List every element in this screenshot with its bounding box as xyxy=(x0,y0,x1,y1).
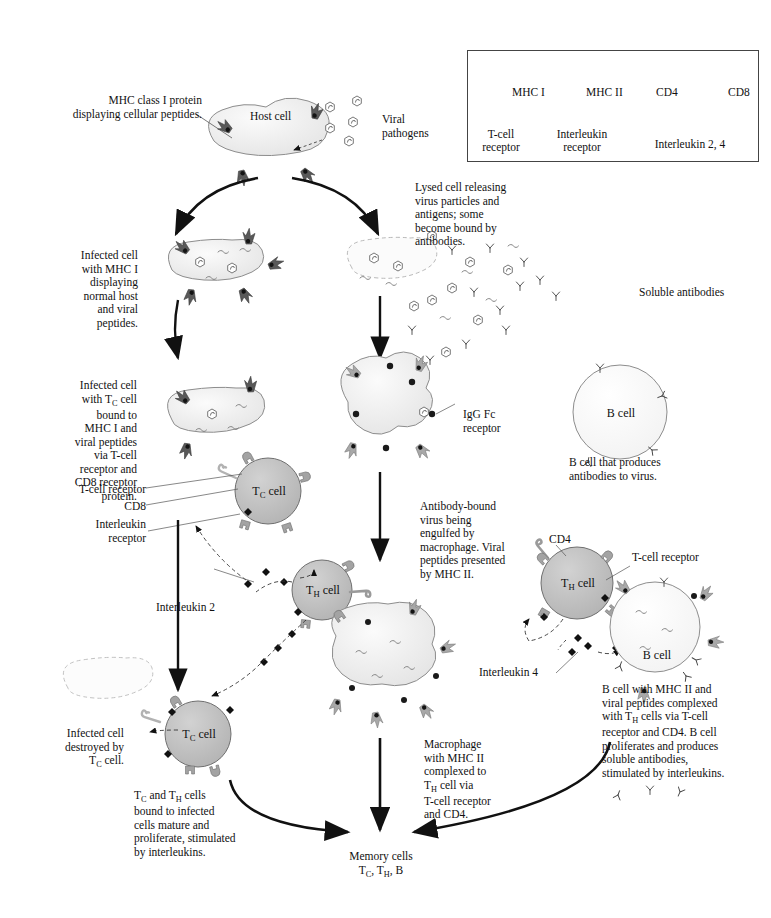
destroyed-cell-group xyxy=(63,657,152,698)
line-mem2: TC, TH, B xyxy=(359,864,404,876)
memory-cells-caption: Memory cells TC, TH, B xyxy=(318,850,444,880)
line-tm1: TC and TH cells xyxy=(134,789,206,801)
infected-cell-mhc1-group xyxy=(168,227,285,306)
th-cell-label-right: TH cell xyxy=(554,576,602,593)
interleukin-4-label: Interleukin 4 xyxy=(479,666,538,680)
infected-destroyed-caption: Infected cell destroyed by TC cell. xyxy=(26,727,124,770)
lysed-cell-caption: Lysed cell releasing virus particles and… xyxy=(415,181,545,249)
free-antibodies-bottom xyxy=(613,786,685,800)
legend-label-interleukin: Interleukin 2, 4 xyxy=(630,138,750,151)
b-cell-label-right-bottom: B cell xyxy=(634,648,680,662)
macrophage-caption: Macrophage with MHC II complexed to TH c… xyxy=(424,738,534,822)
line-tc2: with TC cell xyxy=(82,393,137,405)
macrophage-upper-group xyxy=(341,352,455,461)
viral-pathogens-label: Viral pathogens xyxy=(382,113,442,140)
tc-cell-label-mid: TC cell xyxy=(245,484,293,501)
th-cell-label-center: TH cell xyxy=(299,583,347,600)
legend-label-mhc1: MHC I xyxy=(512,86,545,98)
macrophage-lower-group xyxy=(328,597,457,728)
legend-label-tcr: T-cell receptor xyxy=(470,128,532,154)
b-cell-label-right-top: B cell xyxy=(598,406,644,420)
legend-label-cd8: CD8 xyxy=(728,86,750,98)
interleukin-receptor-label: Interleukin receptor xyxy=(58,518,146,545)
line-id3: TC cell. xyxy=(89,754,124,766)
tc-cell-label-bottom: TC cell xyxy=(175,727,223,744)
legend-label-ilr: Interleukin receptor xyxy=(546,128,618,154)
cd4-label-right: CD4 xyxy=(549,533,571,547)
soluble-antibodies-label: Soluble antibodies xyxy=(639,286,724,300)
t-cell-receptor-label-right: T-cell receptor xyxy=(632,551,699,565)
t-cell-receptor-label-left: T-cell receptor xyxy=(62,483,146,497)
b-cell-produces-caption: B cell that produces antibodies to virus… xyxy=(569,456,719,483)
cd8-label: CD8 xyxy=(92,500,146,514)
tc-th-mature-caption: TC and TH cells bound to infected cells … xyxy=(134,789,286,859)
bcell-mhc2-caption: B cell with MHC II and viral peptides co… xyxy=(602,683,762,780)
host-cell-label: Host cell xyxy=(250,110,291,124)
immunology-diagram: MHC I MHC II CD4 CD8 T-cell receptor Int… xyxy=(0,0,771,918)
infected-cell-mhc1-caption: Infected cell with MHC I displaying norm… xyxy=(28,249,138,330)
igg-fc-receptor-label: IgG Fc receptor xyxy=(463,408,523,435)
legend-label-mhc2: MHC II xyxy=(586,86,623,98)
line-mc4: TH cell via xyxy=(424,779,473,791)
legend-label-cd4: CD4 xyxy=(656,86,678,98)
antibody-bound-caption: Antibody-bound virus being engulfed by m… xyxy=(420,500,542,581)
line-bm3: with TH cells via T-cell xyxy=(602,710,708,722)
interleukin-2-label: Interleukin 2 xyxy=(156,601,215,615)
infected-cell-tc-group xyxy=(146,375,311,533)
mhc1-callout-label: MHC class I protein displaying cellular … xyxy=(62,94,202,121)
